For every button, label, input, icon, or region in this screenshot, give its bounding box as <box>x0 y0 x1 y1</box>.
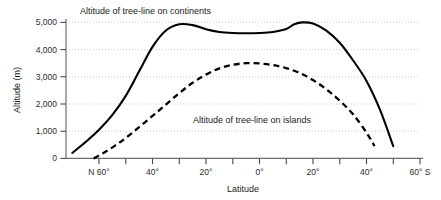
chart-canvas: 5,000 4,000 3,000 2,000 1,000 0 Altitude… <box>0 0 441 200</box>
annotation-islands: Altitude of tree-line on islands <box>193 115 312 125</box>
x-axis-title: Latitude <box>227 184 259 194</box>
y-tick-label-3000: 3,000 <box>36 72 58 82</box>
y-tick-label-1000: 1,000 <box>36 126 58 136</box>
y-tick-label-4000: 4,000 <box>36 45 58 55</box>
x-tick-label-20n: 20° <box>200 167 213 177</box>
x-tick-label-20s: 20° <box>307 167 320 177</box>
y-axis-title: Altitude (m) <box>12 67 22 113</box>
y-tick-label-0: 0 <box>52 153 57 163</box>
x-tick-label-40n: 40° <box>146 167 159 177</box>
y-tick-label-2000: 2,000 <box>36 99 58 109</box>
x-tick-label-40s: 40° <box>360 167 373 177</box>
x-tick-label-0: 0° <box>255 167 263 177</box>
y-tick-label-5000: 5,000 <box>36 17 58 27</box>
x-tick-label-60n: N 60° <box>88 167 109 177</box>
x-tick-label-60s: 60° S <box>410 167 431 177</box>
tree-line-altitude-chart: 5,000 4,000 3,000 2,000 1,000 0 Altitude… <box>0 0 441 200</box>
annotation-continents: Altitude of tree-line on continents <box>80 6 212 16</box>
